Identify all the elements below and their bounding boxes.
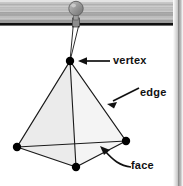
- label-edge: edge: [140, 87, 166, 98]
- face-pointer-arrow: [100, 146, 131, 167]
- support-band: [0, 0, 174, 26]
- figure-canvas: vertex edge face: [0, 0, 183, 186]
- vertex-back-right: [122, 137, 130, 145]
- vertex-pointer-arrow: [78, 57, 110, 65]
- suspension-threads: [70, 26, 79, 61]
- label-face: face: [131, 160, 154, 171]
- edge-pointer-arrow: [107, 88, 139, 109]
- tetrahedron-faces: [17, 61, 126, 167]
- vertex-apex: [66, 57, 74, 65]
- label-vertex: vertex: [113, 55, 147, 66]
- vertex-back-left: [13, 143, 21, 151]
- page-edge-shadow: [173, 0, 183, 186]
- vertex-front: [72, 163, 80, 171]
